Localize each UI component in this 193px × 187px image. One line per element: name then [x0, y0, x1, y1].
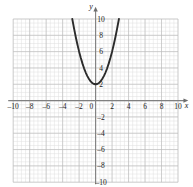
svg-text:–4: –4	[58, 102, 67, 111]
svg-text:4: 4	[127, 102, 131, 111]
svg-text:–6: –6	[41, 102, 50, 111]
svg-text:6: 6	[99, 47, 103, 56]
coordinate-plane-figure: –10–8–6–4–20246810 108642–2–4–6–8–10 xy	[0, 0, 193, 187]
graph-canvas: –10–8–6–4–20246810 108642–2–4–6–8–10 xy	[0, 0, 193, 187]
svg-text:0: 0	[90, 102, 94, 111]
svg-text:–10: –10	[7, 102, 20, 111]
svg-text:10: 10	[174, 102, 182, 111]
svg-text:–10: –10	[94, 178, 107, 187]
svg-text:–2: –2	[96, 113, 105, 122]
svg-text:–4: –4	[96, 129, 105, 138]
svg-text:6: 6	[143, 102, 147, 111]
svg-text:8: 8	[99, 31, 103, 40]
svg-text:–8: –8	[96, 161, 105, 170]
svg-text:–2: –2	[74, 102, 83, 111]
svg-text:10: 10	[97, 15, 105, 24]
svg-text:4: 4	[99, 64, 103, 73]
svg-text:y: y	[88, 2, 93, 11]
x-tick-labels: –10–8–6–4–20246810	[7, 102, 182, 111]
svg-text:8: 8	[160, 102, 164, 111]
svg-text:–8: –8	[25, 102, 34, 111]
svg-text:–6: –6	[96, 145, 105, 154]
svg-text:2: 2	[110, 102, 114, 111]
svg-text:x: x	[184, 101, 189, 110]
